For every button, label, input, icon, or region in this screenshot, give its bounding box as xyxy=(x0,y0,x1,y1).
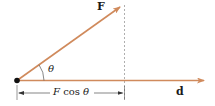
projection-cos: cos xyxy=(60,86,83,97)
projection-F: F xyxy=(53,86,60,97)
projection-theta: θ xyxy=(83,86,89,97)
origin-point xyxy=(14,78,20,84)
projection-label: F cos θ xyxy=(53,87,89,97)
force-label: F xyxy=(97,1,105,12)
angle-label: θ xyxy=(48,64,54,74)
displacement-label: d xyxy=(176,86,184,97)
angle-arc xyxy=(39,65,44,81)
force-vector-F xyxy=(17,7,120,81)
